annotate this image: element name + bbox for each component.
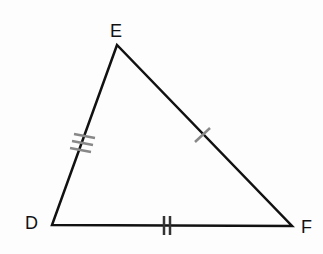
triangle-figure [0, 0, 323, 254]
vertex-label-d: D [25, 214, 38, 232]
vertex-label-e: E [110, 22, 122, 40]
vertex-label-f: F [301, 218, 312, 236]
triangle-diagram: E D F [0, 0, 323, 254]
tick-marks-de [70, 134, 95, 152]
